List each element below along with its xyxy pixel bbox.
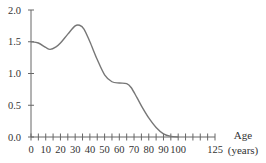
y-tick-label: 0.0 — [8, 132, 21, 143]
y-tick-label: 1.0 — [8, 68, 21, 79]
x-axis-title: Age — [234, 129, 252, 141]
x-axis-title-units: (years) — [228, 144, 259, 157]
x-tick-label: 90 — [158, 144, 169, 155]
x-tick-label: 70 — [129, 144, 140, 155]
x-tick-label: 30 — [70, 144, 81, 155]
y-axis — [28, 10, 34, 137]
x-tick-labels: 0102030405060708090100125 — [28, 144, 223, 155]
x-tick-label: 125 — [207, 144, 223, 155]
x-tick-label: 80 — [144, 144, 155, 155]
x-axis — [31, 134, 215, 141]
line-chart: 0102030405060708090100125 0.00.51.01.52.… — [0, 0, 266, 163]
y-tick-label: 0.5 — [8, 100, 21, 111]
x-tick-label: 40 — [85, 144, 96, 155]
x-tick-label: 60 — [114, 144, 125, 155]
x-tick-label: 0 — [28, 144, 33, 155]
x-tick-label: 50 — [99, 144, 110, 155]
x-tick-label: 20 — [55, 144, 66, 155]
y-tick-label: 2.0 — [8, 5, 21, 16]
y-tick-labels: 0.00.51.01.52.0 — [8, 5, 21, 143]
data-curve — [31, 25, 178, 137]
y-tick-label: 1.5 — [8, 36, 21, 47]
x-tick-label: 100 — [170, 144, 186, 155]
x-tick-label: 10 — [40, 144, 51, 155]
